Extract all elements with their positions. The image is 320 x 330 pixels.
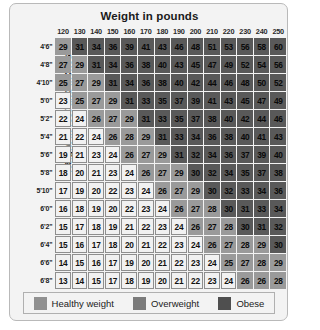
bmi-cell-obese: 30 bbox=[221, 200, 237, 217]
bmi-cell-obese: 34 bbox=[105, 56, 121, 73]
bmi-cell-overweight: 26 bbox=[254, 272, 270, 289]
bmi-cell-healthy: 17 bbox=[88, 236, 104, 253]
bmi-cell-healthy: 23 bbox=[171, 236, 187, 253]
row-header-height: 5'10" bbox=[31, 182, 54, 199]
bmi-cell-obese: 36 bbox=[121, 56, 137, 73]
bmi-cell-healthy: 19 bbox=[138, 272, 154, 289]
bmi-cell-healthy: 21 bbox=[155, 254, 171, 271]
bmi-cell-healthy: 20 bbox=[72, 164, 88, 181]
bmi-cell-obese: 56 bbox=[237, 38, 253, 55]
legend-item-obese: Obese bbox=[218, 297, 264, 310]
bmi-cell-overweight: 29 bbox=[138, 128, 154, 145]
bmi-cell-overweight: 29 bbox=[88, 74, 104, 91]
legend-swatch-overweight-icon bbox=[133, 297, 146, 310]
bmi-cell-healthy: 20 bbox=[138, 254, 154, 271]
bmi-cell-obese: 35 bbox=[171, 110, 187, 127]
bmi-cell-obese: 44 bbox=[254, 110, 270, 127]
legend-swatch-obese-icon bbox=[218, 297, 231, 310]
bmi-cell-obese: 34 bbox=[204, 146, 220, 163]
bmi-cell-overweight: 26 bbox=[155, 182, 171, 199]
bmi-cell-healthy: 15 bbox=[55, 218, 71, 235]
table-row: 5'6"1921232426272931323436373940 bbox=[31, 146, 286, 163]
table-body: 4'6"29313436394143464851535658604'8"2729… bbox=[31, 38, 286, 289]
column-header-weight: 230 bbox=[237, 27, 253, 37]
bmi-cell-healthy: 23 bbox=[105, 164, 121, 181]
bmi-cell-overweight: 26 bbox=[237, 272, 253, 289]
bmi-cell-overweight: 26 bbox=[188, 218, 204, 235]
bmi-cell-overweight: 28 bbox=[121, 128, 137, 145]
bmi-cell-obese: 36 bbox=[204, 128, 220, 145]
bmi-cell-overweight: 29 bbox=[171, 164, 187, 181]
bmi-cell-obese: 43 bbox=[270, 128, 286, 145]
bmi-cell-overweight: 29 bbox=[188, 182, 204, 199]
column-header-weight: 250 bbox=[270, 27, 286, 37]
bmi-cell-obese: 36 bbox=[138, 74, 154, 91]
row-header-height: 4'8" bbox=[31, 56, 54, 73]
legend-item-healthy: Healthy weight bbox=[34, 297, 114, 310]
table-row: 4'10"2527293134363840424446485052 bbox=[31, 74, 286, 91]
bmi-cell-healthy: 24 bbox=[72, 110, 88, 127]
bmi-cell-overweight: 27 bbox=[171, 182, 187, 199]
bmi-cell-overweight: 27 bbox=[188, 200, 204, 217]
bmi-cell-healthy: 14 bbox=[55, 254, 71, 271]
bmi-cell-healthy: 22 bbox=[105, 182, 121, 199]
bmi-cell-obese: 39 bbox=[254, 146, 270, 163]
bmi-cell-obese: 31 bbox=[138, 110, 154, 127]
bmi-cell-healthy: 13 bbox=[55, 272, 71, 289]
bmi-cell-healthy: 21 bbox=[171, 272, 187, 289]
column-header-weight: 130 bbox=[72, 27, 88, 37]
table-row: 6'4"1516171820212223242627282930 bbox=[31, 236, 286, 253]
bmi-cell-obese: 31 bbox=[88, 56, 104, 73]
bmi-cell-overweight: 26 bbox=[138, 164, 154, 181]
bmi-cell-overweight: 26 bbox=[105, 128, 121, 145]
bmi-cell-obese: 33 bbox=[138, 92, 154, 109]
bmi-cell-overweight: 25 bbox=[55, 74, 71, 91]
bmi-cell-obese: 39 bbox=[188, 92, 204, 109]
bmi-cell-healthy: 18 bbox=[72, 200, 88, 217]
bmi-cell-obese: 44 bbox=[204, 74, 220, 91]
bmi-cell-healthy: 20 bbox=[121, 236, 137, 253]
table-row: 5'0"2325272931333537394143454749 bbox=[31, 92, 286, 109]
bmi-cell-overweight: 27 bbox=[155, 164, 171, 181]
bmi-cell-overweight: 27 bbox=[237, 254, 253, 271]
bmi-cell-obese: 38 bbox=[270, 164, 286, 181]
bmi-cell-obese: 37 bbox=[188, 110, 204, 127]
bmi-cell-obese: 31 bbox=[105, 74, 121, 91]
bmi-cell-healthy: 24 bbox=[188, 236, 204, 253]
bmi-cell-obese: 60 bbox=[270, 38, 286, 55]
table-row: 4'6"2931343639414346485153565860 bbox=[31, 38, 286, 55]
bmi-cell-overweight: 27 bbox=[105, 110, 121, 127]
bmi-cell-overweight: 29 bbox=[155, 146, 171, 163]
bmi-cell-healthy: 22 bbox=[72, 128, 88, 145]
bmi-cell-healthy: 20 bbox=[88, 182, 104, 199]
row-header-height: 5'2" bbox=[31, 110, 54, 127]
bmi-cell-obese: 46 bbox=[221, 74, 237, 91]
bmi-cell-obese: 46 bbox=[270, 110, 286, 127]
bmi-cell-overweight: 29 bbox=[55, 38, 71, 55]
legend-label: Healthy weight bbox=[52, 298, 114, 309]
bmi-cell-healthy: 20 bbox=[105, 200, 121, 217]
bmi-cell-overweight: 28 bbox=[237, 236, 253, 253]
bmi-cell-obese: 36 bbox=[270, 182, 286, 199]
bmi-cell-obese: 32 bbox=[270, 218, 286, 235]
bmi-cell-obese: 39 bbox=[121, 38, 137, 55]
bmi-cell-overweight: 29 bbox=[270, 254, 286, 271]
bmi-cell-obese: 33 bbox=[155, 110, 171, 127]
bmi-cell-healthy: 24 bbox=[105, 146, 121, 163]
row-header-height: 6'6" bbox=[31, 254, 54, 271]
bmi-cell-healthy: 22 bbox=[138, 218, 154, 235]
bmi-cell-obese: 52 bbox=[237, 56, 253, 73]
bmi-cell-healthy: 22 bbox=[188, 272, 204, 289]
bmi-cell-obese: 35 bbox=[237, 164, 253, 181]
bmi-cell-obese: 38 bbox=[204, 110, 220, 127]
bmi-cell-obese: 36 bbox=[105, 38, 121, 55]
bmi-cell-overweight: 28 bbox=[270, 272, 286, 289]
row-header-height: 6'0" bbox=[31, 200, 54, 217]
legend-label: Obese bbox=[236, 298, 264, 309]
bmi-cell-obese: 42 bbox=[237, 110, 253, 127]
bmi-cell-healthy: 22 bbox=[155, 236, 171, 253]
bmi-cell-obese: 46 bbox=[171, 38, 187, 55]
bmi-cell-healthy: 24 bbox=[204, 254, 220, 271]
bmi-cell-obese: 43 bbox=[221, 92, 237, 109]
bmi-cell-overweight: 28 bbox=[204, 200, 220, 217]
